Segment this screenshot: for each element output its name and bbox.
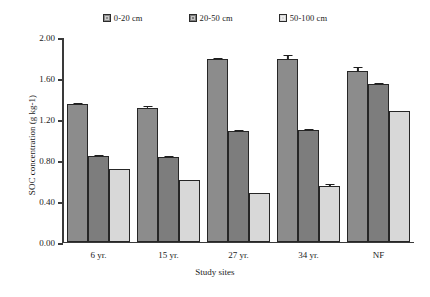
bar-slot xyxy=(109,38,130,242)
bar-slot xyxy=(368,38,389,242)
error-bar-cap-top xyxy=(143,106,152,107)
bar[interactable] xyxy=(347,71,368,241)
bar[interactable] xyxy=(389,111,410,241)
bar-slot xyxy=(389,38,410,242)
plot-area: 0.000.400.801.201.602.00 xyxy=(62,38,414,243)
legend-item-0[interactable]: 0-20 cm xyxy=(103,13,143,23)
bar-group xyxy=(64,38,134,242)
error-bar-cap-top xyxy=(325,184,334,185)
legend-swatch-icon xyxy=(189,14,197,22)
x-tick-label-0: 6 yr. xyxy=(64,250,134,260)
bar[interactable] xyxy=(137,108,158,241)
bar[interactable] xyxy=(158,157,179,241)
error-bar-cap-top xyxy=(353,67,362,68)
x-axis-tick-labels: 6 yr.15 yr.27 yr.34 yr.NF xyxy=(64,250,414,260)
y-axis-title-wrap: SOC concentration (g kg-1) xyxy=(14,40,28,240)
legend-label: 0-20 cm xyxy=(114,13,143,23)
chart-legend: 0-20 cm20-50 cm50-100 cm xyxy=(0,10,430,26)
y-tick-mark xyxy=(58,243,63,245)
x-axis-title: Study sites xyxy=(0,267,430,277)
y-tick-mark xyxy=(58,161,63,163)
y-axis-title: SOC concentration (g kg-1) xyxy=(27,50,37,240)
bar-slot xyxy=(249,38,270,242)
bar-slot xyxy=(319,38,340,242)
bar-group xyxy=(274,38,344,242)
bar[interactable] xyxy=(207,59,228,241)
y-tick-label: 0.40 xyxy=(39,197,55,207)
legend-label: 50-100 cm xyxy=(290,13,328,23)
legend-item-1[interactable]: 20-50 cm xyxy=(189,13,233,23)
bar[interactable] xyxy=(109,169,130,242)
bar-slot xyxy=(67,38,88,242)
bar[interactable] xyxy=(298,130,319,242)
bar[interactable] xyxy=(228,131,249,242)
y-tick-label: 2.00 xyxy=(39,33,55,43)
bar-slot xyxy=(298,38,319,242)
bar[interactable] xyxy=(319,186,340,241)
bar-slot xyxy=(347,38,368,242)
bar[interactable] xyxy=(277,59,298,241)
bar-slot xyxy=(179,38,200,242)
legend-item-2[interactable]: 50-100 cm xyxy=(279,13,328,23)
bar-slot xyxy=(88,38,109,242)
y-tick-mark xyxy=(58,202,63,204)
bar-group xyxy=(344,38,414,242)
bar[interactable] xyxy=(179,180,200,242)
bar-group xyxy=(134,38,204,242)
legend-swatch-icon xyxy=(103,14,111,22)
x-tick-label-1: 15 yr. xyxy=(134,250,204,260)
bar-slot xyxy=(228,38,249,242)
bar[interactable] xyxy=(368,84,389,242)
bar-slot xyxy=(158,38,179,242)
x-axis-line xyxy=(62,242,414,244)
bar[interactable] xyxy=(249,193,270,241)
y-tick-mark xyxy=(58,79,63,81)
bar[interactable] xyxy=(67,104,88,241)
bar-slot xyxy=(207,38,228,242)
y-tick-label: 0.00 xyxy=(39,238,55,248)
bar-groups xyxy=(64,38,415,242)
y-tick-label: 1.20 xyxy=(39,115,55,125)
y-tick-mark xyxy=(58,120,63,122)
bar-group xyxy=(204,38,274,242)
x-tick-label-4: NF xyxy=(344,250,414,260)
bar[interactable] xyxy=(88,156,109,241)
y-tick-label: 1.60 xyxy=(39,74,55,84)
legend-label: 20-50 cm xyxy=(200,13,233,23)
chart-figure: 0-20 cm20-50 cm50-100 cm 0.000.400.801.2… xyxy=(0,0,430,297)
x-tick-label-2: 27 yr. xyxy=(204,250,274,260)
x-tick-label-3: 34 yr. xyxy=(274,250,344,260)
bar-slot xyxy=(137,38,158,242)
legend-swatch-icon xyxy=(279,14,287,22)
y-tick-mark xyxy=(58,38,63,40)
bar-slot xyxy=(277,38,298,242)
y-tick-label: 0.80 xyxy=(39,156,55,166)
error-bar-cap-top xyxy=(283,55,292,56)
